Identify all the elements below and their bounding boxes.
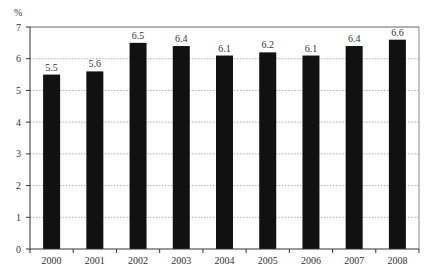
bar-2005 [259, 52, 276, 249]
value-label: 6.4 [175, 33, 188, 44]
y-tick-label: 3 [16, 148, 21, 159]
x-tick-label: 2006 [301, 255, 321, 266]
bar-2003 [173, 46, 190, 249]
y-tick-label: 7 [16, 22, 21, 33]
bar-2001 [86, 71, 103, 249]
x-tick-label: 2001 [85, 255, 105, 266]
value-label: 6.6 [391, 27, 404, 38]
x-tick-label: 2008 [387, 255, 407, 266]
y-tick-label: 1 [16, 212, 21, 223]
value-label: 6.1 [305, 43, 318, 54]
bar-2007 [346, 46, 363, 249]
bar-2006 [302, 56, 319, 249]
x-tick-label: 2004 [215, 255, 235, 266]
value-label: 5.5 [45, 62, 58, 73]
y-tick-label: 4 [16, 117, 21, 128]
x-tick-label: 2003 [171, 255, 191, 266]
value-label: 6.1 [218, 43, 231, 54]
bar-2004 [216, 56, 233, 249]
bar-chart: 5.55.66.56.46.16.26.16.46.6 012345672000… [0, 0, 434, 280]
bars: 5.55.66.56.46.16.26.16.46.6 [43, 27, 406, 249]
x-tick-label: 2000 [42, 255, 62, 266]
x-tick-label: 2005 [258, 255, 278, 266]
y-tick-label: 2 [16, 180, 21, 191]
x-tick-label: 2002 [128, 255, 148, 266]
x-tick-label: 2007 [344, 255, 364, 266]
value-label: 6.2 [261, 39, 274, 50]
value-label: 5.6 [89, 58, 102, 69]
value-label: 6.4 [348, 33, 361, 44]
bar-2000 [43, 75, 60, 249]
y-tick-label: 0 [16, 244, 21, 255]
y-tick-label: 6 [16, 53, 21, 64]
bar-2008 [389, 40, 406, 249]
bar-2002 [130, 43, 147, 249]
value-label: 6.5 [132, 30, 145, 41]
y-axis-label: % [14, 7, 22, 18]
y-tick-label: 5 [16, 85, 21, 96]
